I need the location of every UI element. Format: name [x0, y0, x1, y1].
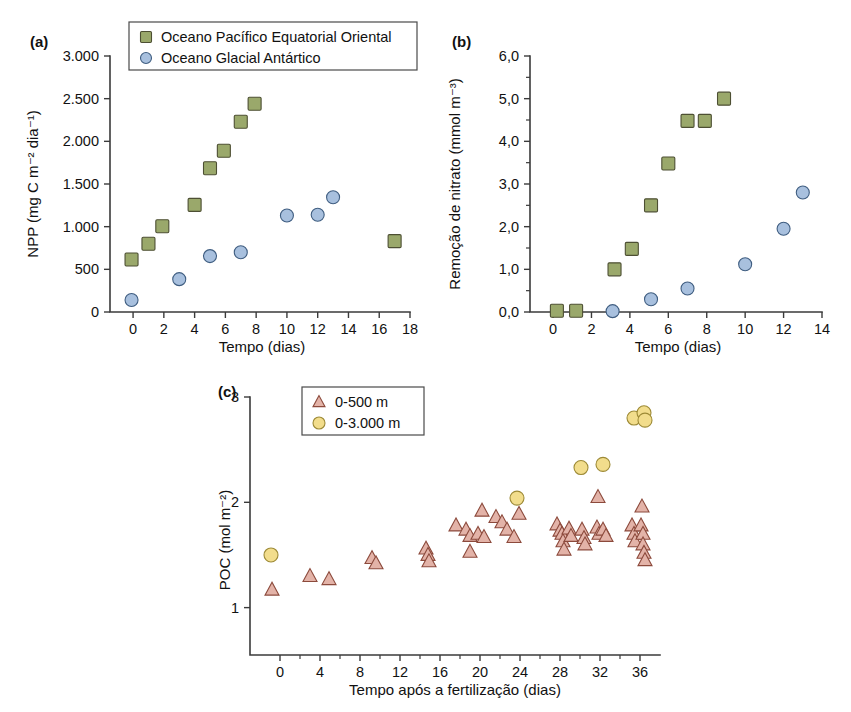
c-axis-xticklabel: 4 — [316, 664, 324, 680]
a-axis-spine — [110, 56, 410, 312]
b-axis-xticklabel: 2 — [587, 321, 595, 337]
b-axis-xticklabel: 14 — [814, 321, 830, 337]
datapoint — [550, 304, 563, 317]
panel-b: (b) 0,01,02,03,04,05,06,002468101214 Tem… — [430, 0, 851, 365]
datapoint — [234, 246, 247, 259]
b-axis-xticklabel: 6 — [664, 321, 672, 337]
square-marker — [141, 32, 152, 43]
datapoint — [217, 144, 230, 157]
datapoint — [264, 548, 278, 562]
datapoint — [681, 114, 694, 127]
a-axis-xticklabel: 14 — [340, 321, 356, 337]
datapoint — [125, 253, 138, 266]
datapoint — [575, 522, 589, 535]
panel-c-yaxis-title: POC (mol m⁻²) — [216, 490, 233, 591]
b-axis-yticklabel: 6,0 — [499, 48, 519, 64]
datapoint — [625, 242, 638, 255]
datapoint — [303, 569, 317, 582]
a-axis-xticklabel: 0 — [129, 321, 137, 337]
c-axis-xticklabel: 16 — [432, 664, 448, 680]
a-axis-yticklabel: 3.000 — [63, 48, 99, 64]
datapoint — [475, 503, 489, 516]
a-axis-xticklabel: 16 — [371, 321, 387, 337]
panel-a-svg: (a) 05001.0001.5002.0002.5003.0000246810… — [0, 0, 430, 365]
c-axis-xticklabel: 28 — [552, 664, 568, 680]
datapoint — [327, 191, 340, 204]
datapoint — [311, 208, 324, 221]
b-axis-xticklabel: 4 — [626, 321, 634, 337]
datapoint — [248, 97, 261, 110]
panel-c-xaxis-title: Tempo após a fertilização (dias) — [349, 681, 561, 698]
datapoint — [463, 544, 477, 557]
datapoint — [512, 506, 526, 519]
panel-c: (c) 12304812162024283236 0-500 m0-3.000 … — [190, 365, 690, 712]
datapoint — [681, 282, 694, 295]
datapoint — [280, 209, 293, 222]
b-axis-yticklabel: 3,0 — [499, 176, 519, 192]
panel-a: (a) 05001.0001.5002.0002.5003.0000246810… — [0, 0, 430, 365]
series-1 — [125, 97, 401, 266]
a-axis-xticklabel: 10 — [279, 321, 295, 337]
panel-c-legend-label: 0-3.000 m — [335, 415, 400, 431]
datapoint — [777, 222, 790, 235]
datapoint — [606, 305, 619, 318]
datapoint — [173, 273, 186, 286]
datapoint — [204, 250, 217, 263]
panel-c-svg: (c) 12304812162024283236 0-500 m0-3.000 … — [190, 365, 690, 712]
b-axis-xticklabel: 12 — [776, 321, 792, 337]
a-axis-yticklabel: 0 — [91, 304, 99, 320]
datapoint — [204, 162, 217, 175]
datapoint — [570, 304, 583, 317]
datapoint — [645, 293, 658, 306]
datapoint — [322, 572, 336, 585]
b-axis-xticklabel: 0 — [549, 321, 557, 337]
b-axis-yticklabel: 1,0 — [499, 261, 519, 277]
panel-a-yaxis-title: NPP (mg C m⁻² dia⁻¹) — [24, 110, 41, 257]
datapoint — [796, 186, 809, 199]
c-axis-xticklabel: 20 — [472, 664, 488, 680]
panel-c-legend-label: 0-500 m — [335, 394, 388, 410]
a-axis-xticklabel: 2 — [160, 321, 168, 337]
datapoint — [265, 582, 279, 595]
panel-a-legend-label: Oceano Glacial Antártico — [161, 50, 321, 66]
datapoint — [574, 461, 588, 475]
panel-a-datapoints — [125, 97, 401, 306]
series-1 — [265, 490, 652, 596]
datapoint — [635, 499, 649, 512]
b-axis-spine — [530, 56, 822, 312]
c-axis-yticklabel: 1 — [231, 600, 239, 616]
circle-y-marker — [313, 417, 325, 429]
b-axis-xticklabel: 8 — [703, 321, 711, 337]
datapoint — [188, 198, 201, 211]
panel-a-xaxis-title: Tempo (dias) — [219, 338, 306, 355]
datapoint — [718, 92, 731, 105]
panel-a-legend: Oceano Pacífico Equatorial OrientalOcean… — [129, 22, 417, 70]
datapoint — [449, 518, 463, 531]
datapoint — [510, 491, 524, 505]
c-axis-xticklabel: 0 — [276, 664, 284, 680]
b-axis-yticklabel: 5,0 — [499, 91, 519, 107]
a-axis-xticklabel: 12 — [310, 321, 326, 337]
panel-b-yaxis-title: Remoção de nitrato (mmol m⁻³) — [446, 78, 463, 289]
c-axis-xticklabel: 8 — [356, 664, 364, 680]
datapoint — [142, 237, 155, 250]
panel-b-datapoints — [550, 92, 809, 317]
a-axis-xticklabel: 4 — [191, 321, 199, 337]
panel-b-axes: 0,01,02,03,04,05,06,002468101214 — [499, 48, 830, 337]
series-1 — [550, 92, 730, 317]
c-axis-xticklabel: 32 — [592, 664, 608, 680]
datapoint — [591, 490, 605, 503]
datapoint — [156, 220, 169, 233]
a-axis-yticklabel: 1.500 — [63, 176, 99, 192]
datapoint — [388, 235, 401, 248]
datapoint — [596, 457, 610, 471]
b-axis-yticklabel: 0,0 — [499, 304, 519, 320]
panel-b-label: (b) — [452, 33, 471, 50]
a-axis-xticklabel: 18 — [402, 321, 418, 337]
a-axis-yticklabel: 500 — [75, 261, 99, 277]
c-axis-yticklabel: 3 — [231, 389, 239, 405]
series-2 — [125, 191, 340, 307]
panel-c-legend: 0-500 m0-3.000 m — [302, 387, 424, 435]
b-axis-yticklabel: 4,0 — [499, 133, 519, 149]
a-axis-xticklabel: 8 — [252, 321, 260, 337]
